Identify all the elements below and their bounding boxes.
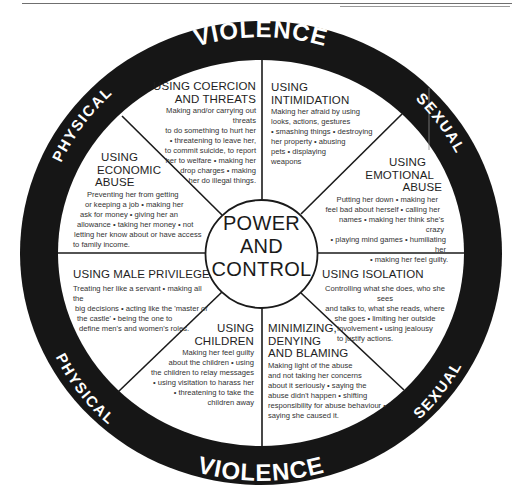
title-line: AND THREATS [150, 93, 256, 106]
segment-title: USING ISOLATION [318, 268, 452, 281]
body-line: feel bad about herself • calling her [322, 205, 448, 215]
body-line: and talks to, what she reads, where [318, 304, 452, 314]
title-line: DENYING [268, 335, 394, 348]
segment-title: USING INTIMIDATION [271, 81, 383, 106]
center-label: POWER AND CONTROL [205, 212, 318, 281]
body-line: • threatening to take the [140, 388, 254, 398]
segment-title: USING EMOTIONAL ABUSE [322, 156, 448, 194]
segment-title: USING MALE PRIVILEGE [73, 268, 211, 281]
body-line: • playing mind games • humiliating her [322, 235, 448, 255]
body-line: to family income. [65, 240, 205, 250]
body-line: children away [140, 398, 254, 408]
segment-economic-abuse: USING ECONOMIC ABUSE Preventing her from… [65, 151, 205, 250]
body-line: • making her feel guilty. [322, 255, 448, 265]
title-line: USING [322, 156, 442, 169]
body-line: the castle' • being the one to [73, 314, 211, 324]
segment-title: MINIMIZING, DENYING AND BLAMING [268, 322, 394, 360]
segment-body: Treating her like a servant • making all… [73, 284, 211, 334]
body-line: the children to relay messages [140, 368, 254, 378]
body-line: allowance • taking her money • not [65, 220, 205, 230]
title-line: CHILDREN [140, 335, 254, 348]
title-line: MINIMIZING, [268, 322, 394, 335]
body-line: Preventing her from getting [65, 190, 205, 200]
body-line: her property • abusing [271, 137, 383, 147]
body-line: saying she caused it. [268, 411, 394, 421]
body-line: letting her know about or have access [65, 230, 205, 240]
segment-title: USING COERCION AND THREATS [150, 80, 256, 105]
segment-title: USING ECONOMIC ABUSE [65, 151, 205, 189]
center-line-control: CONTROL [205, 258, 318, 281]
title-line: INTIMIDATION [271, 94, 383, 107]
segment-body: Putting her down • making her feel bad a… [322, 195, 448, 265]
body-line: Making her afraid by using [271, 107, 383, 117]
body-line: to do something to hurt her [150, 126, 256, 136]
title-line: USING MALE PRIVILEGE [73, 268, 211, 281]
segment-body: Making her feel guilty about the childre… [140, 348, 254, 408]
body-line: Putting her down • making her [322, 195, 448, 205]
segment-body: Preventing her from getting or keeping a… [65, 190, 205, 250]
body-line: Making and/or carrying out threats [150, 106, 256, 126]
body-line: or keeping a job • making her [65, 200, 205, 210]
body-line: about it seriously • saying the [268, 381, 394, 391]
body-line: looks, actions, gestures [271, 117, 383, 127]
segment-intimidation: USING INTIMIDATION Making her afraid by … [271, 81, 383, 167]
title-line: EMOTIONAL [322, 169, 442, 182]
body-line: define men's and women's roles. [73, 324, 211, 334]
segment-body: Making light of the abuse and not taking… [268, 361, 394, 421]
title-line: ABUSE [322, 181, 442, 194]
body-line: • threatening to leave her, [150, 136, 256, 146]
body-line: big decisions • acting like the 'master … [73, 304, 211, 314]
body-line: about the children • using [140, 358, 254, 368]
body-line: • smashing things • destroying [271, 127, 383, 137]
body-line: responsibility for abuse behaviour • [268, 401, 394, 411]
segment-children: USING CHILDREN Making her feel guilty ab… [140, 322, 254, 408]
body-line: Treating her like a servant • making all… [73, 284, 211, 304]
title-line: ECONOMIC [65, 164, 205, 177]
segment-male-privilege: USING MALE PRIVILEGE Treating her like a… [73, 268, 211, 334]
body-line: Controlling what she does, who she sees [318, 284, 452, 304]
body-line: Making her feel guilty [140, 348, 254, 358]
body-line: names • making her think she's crazy [322, 215, 448, 235]
title-line: USING [65, 151, 205, 164]
title-line: ABUSE [65, 176, 205, 189]
segment-emotional-abuse: USING EMOTIONAL ABUSE Putting her down •… [322, 156, 448, 265]
body-line: abuse didn't happen • shifting [268, 391, 394, 401]
segment-minimizing-denying-blaming: MINIMIZING, DENYING AND BLAMING Making l… [268, 322, 394, 421]
body-line: • using visitation to harass her [140, 378, 254, 388]
title-line: USING ISOLATION [322, 268, 452, 281]
title-line: USING [271, 81, 383, 94]
body-line: Making light of the abuse [268, 361, 394, 371]
body-line: ask for money • giving her an [65, 210, 205, 220]
title-line: USING COERCION [150, 80, 256, 93]
center-line-and: AND [205, 235, 318, 258]
title-line: AND BLAMING [268, 347, 394, 360]
body-line: and not taking her concerns [268, 371, 394, 381]
center-line-power: POWER [205, 212, 318, 235]
